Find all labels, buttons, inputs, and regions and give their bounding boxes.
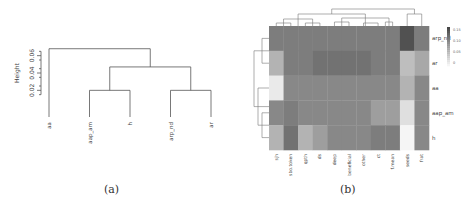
heatmap-cell	[356, 51, 371, 76]
heatmap-cell	[313, 51, 328, 76]
column-label: deep	[332, 154, 337, 165]
legend-color-step	[447, 43, 450, 45]
row-label: aap_am	[432, 110, 454, 117]
legend-color-step	[447, 64, 450, 66]
heatmap-cell	[284, 100, 299, 125]
heatmap-cell	[327, 100, 342, 125]
heatmap-cell	[414, 51, 429, 76]
heatmap-cell	[298, 26, 313, 51]
heatmap-cell	[298, 100, 313, 125]
heatmap-cell	[371, 26, 386, 51]
legend-color-step	[447, 58, 450, 60]
legend-color-step	[447, 45, 450, 47]
heatmap-cell	[385, 26, 400, 51]
heatmap-cell	[269, 76, 284, 101]
column-label: qpth	[303, 154, 308, 164]
column-dendrogram-branch	[298, 14, 365, 26]
column-label: frat	[419, 154, 424, 162]
heatmap-cell	[414, 26, 429, 51]
legend-color-step	[447, 50, 450, 52]
heatmap-cell	[327, 125, 342, 150]
legend-tick-label: 0.10	[453, 39, 461, 43]
heatmap-cell	[385, 100, 400, 125]
heatmap-cell	[269, 125, 284, 150]
heatmap-cell	[400, 26, 415, 51]
legend-color-step	[447, 52, 450, 54]
heatmap-cell	[385, 76, 400, 101]
column-label: seeds	[405, 153, 410, 167]
heatmap-cell	[313, 76, 328, 101]
legend-color-step	[447, 56, 450, 58]
row-label: ar	[432, 60, 438, 66]
heatmap-cell	[385, 51, 400, 76]
heatmap-cell	[356, 76, 371, 101]
heatmap-cell	[298, 125, 313, 150]
legend-color-step	[447, 37, 450, 39]
heatmap-chart: arp_ndaraaaap_amhsjhsbo.tokenqpthdsdeepb…	[0, 0, 467, 211]
legend-color-step	[447, 35, 450, 37]
heatmap-cell	[400, 125, 415, 150]
legend-tick-label: 0.05	[453, 50, 461, 54]
heatmap-cell	[284, 26, 299, 51]
heatmap-cell	[284, 76, 299, 101]
legend-color-step	[447, 29, 450, 31]
row-dendrogram-branch	[254, 51, 269, 107]
column-dendrogram-branch	[332, 9, 415, 14]
column-label: ct	[376, 154, 381, 158]
heatmap-cell	[356, 125, 371, 150]
column-dendrogram-branch	[407, 14, 422, 26]
heatmap-cell	[298, 76, 313, 101]
legend-color-step	[447, 33, 450, 35]
legend-color-step	[447, 60, 450, 62]
heatmap-cell	[313, 100, 328, 125]
legend-color-step	[447, 62, 450, 64]
legend-color-step	[447, 31, 450, 33]
caption-b: (b)	[340, 183, 356, 196]
heatmap-cell	[371, 76, 386, 101]
heatmap-cell	[284, 125, 299, 150]
heatmap-cell	[327, 26, 342, 51]
legend-color-step	[447, 27, 450, 29]
heatmap-cell	[342, 26, 357, 51]
column-label: f.mean	[390, 154, 395, 170]
heatmap-cell	[400, 76, 415, 101]
column-label: sbo.token	[288, 154, 293, 176]
heatmap-cell	[342, 76, 357, 101]
column-label: ds	[317, 153, 322, 159]
legend-color-step	[447, 41, 450, 43]
heatmap-cell	[414, 100, 429, 125]
heatmap-cell	[284, 51, 299, 76]
heatmap-cell	[342, 125, 357, 150]
column-label: other	[361, 154, 366, 166]
column-label: sjh	[274, 154, 279, 161]
caption-a: (a)	[104, 183, 119, 196]
heatmap-cell	[327, 76, 342, 101]
heatmap-cell	[269, 26, 284, 51]
row-label: aa	[432, 85, 439, 91]
heatmap-cell	[385, 125, 400, 150]
heatmap-cell	[371, 100, 386, 125]
heatmap-cell	[327, 51, 342, 76]
heatmap-cell	[313, 125, 328, 150]
heatmap-cell	[371, 125, 386, 150]
heatmap-cell	[400, 100, 415, 125]
heatmap-cell	[356, 26, 371, 51]
row-label: h	[432, 135, 436, 141]
legend-color-step	[447, 47, 450, 49]
heatmap-cell	[298, 51, 313, 76]
heatmap-cell	[342, 100, 357, 125]
heatmap-cell	[356, 100, 371, 125]
legend-color-step	[447, 54, 450, 56]
legend-tick-label: 0	[453, 61, 455, 65]
heatmap-cell	[414, 76, 429, 101]
legend-color-step	[447, 48, 450, 50]
legend-color-step	[447, 39, 450, 41]
column-dendrogram-branch	[364, 23, 379, 26]
heatmap-cell	[269, 100, 284, 125]
heatmap-cell	[414, 125, 429, 150]
heatmap-cell	[313, 26, 328, 51]
column-label: beneficial	[347, 154, 352, 176]
heatmap-cell	[371, 51, 386, 76]
heatmap-cell	[269, 51, 284, 76]
legend-tick-label: 0.15	[453, 28, 461, 32]
